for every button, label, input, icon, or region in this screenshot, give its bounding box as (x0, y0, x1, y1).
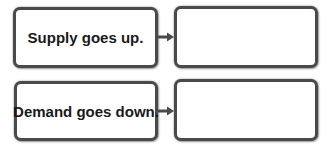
cause-box-1: Supply goes up. (13, 7, 158, 68)
cause-box-2: Demand goes down. (14, 81, 158, 141)
arrow-right-icon (158, 32, 174, 42)
arrow-right-icon (158, 106, 174, 116)
cause-text-1: Supply goes up. (28, 29, 144, 46)
effect-box-2[interactable] (174, 79, 318, 141)
effect-box-1[interactable] (174, 6, 318, 68)
cause-text-2: Demand goes down. (13, 103, 159, 120)
